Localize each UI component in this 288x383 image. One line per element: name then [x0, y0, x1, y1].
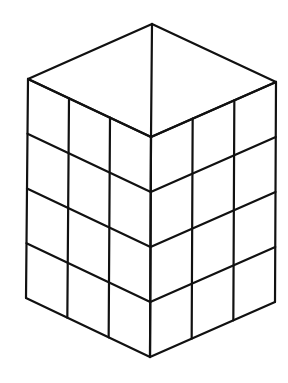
left-horizontal-4: [26, 298, 150, 357]
isometric-prism-diagram: [0, 0, 288, 383]
top-face: [28, 24, 276, 137]
right-horizontal-2: [151, 192, 276, 247]
right-horizontal-3: [150, 247, 275, 302]
left-horizontal-3: [27, 243, 151, 302]
top-edge-left: [28, 24, 152, 79]
right-horizontal-1: [151, 137, 276, 192]
right-horizontal-0: [151, 82, 276, 137]
right-horizontal-4: [150, 302, 275, 357]
left-horizontal-2: [27, 189, 151, 248]
left-face: [26, 79, 151, 357]
prism-svg: [0, 0, 288, 383]
top-diagonal: [151, 24, 152, 137]
left-horizontal-1: [28, 134, 151, 192]
top-edge-right: [152, 24, 276, 82]
left-horizontal-0: [28, 79, 151, 137]
right-face: [150, 82, 276, 357]
